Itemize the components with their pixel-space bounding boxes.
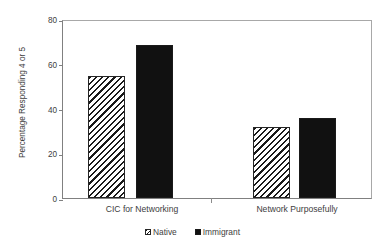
group-divider-tick [211, 198, 212, 203]
legend-label-native: Native [153, 227, 177, 237]
bar-immigrant-network-purposefully [299, 118, 336, 198]
bar-immigrant-cic-for-networking [136, 45, 173, 198]
x-category-label-cic-for-networking: CIC for Networking [62, 204, 222, 214]
y-tick-label-0: 0 [23, 196, 63, 204]
bar-native-cic-for-networking [88, 76, 125, 198]
hatch-swatch-icon [145, 229, 151, 235]
plot-area: 0 20 40 60 80 [62, 20, 372, 199]
x-category-label-network-purposefully: Network Purposefully [222, 204, 372, 214]
bar-chart-figure: Percentage Responding 4 or 5 0 20 40 60 … [0, 0, 385, 250]
solid-swatch-icon [195, 229, 201, 235]
y-tick-label-80: 80 [23, 17, 63, 25]
chart-legend: Native Immigrant [0, 227, 385, 237]
cropped-title-text [24, 0, 224, 3]
bar-native-network-purposefully [253, 127, 290, 198]
legend-item-native: Native [145, 227, 177, 237]
y-tick-label-20: 20 [23, 151, 63, 159]
y-tick-label-40: 40 [23, 107, 63, 115]
y-tick-label-60: 60 [23, 62, 63, 70]
legend-item-immigrant: Immigrant [195, 227, 240, 237]
legend-label-immigrant: Immigrant [203, 227, 240, 237]
y-axis-title: Percentage Responding 4 or 5 [18, 13, 27, 193]
